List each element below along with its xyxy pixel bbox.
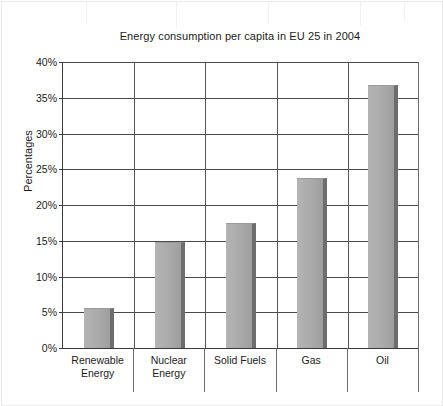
- scan-artifact: [176, 2, 177, 28]
- y-axis-tick: [59, 134, 63, 135]
- y-axis-tick-label: 5%: [42, 306, 57, 318]
- y-axis-tick: [59, 348, 63, 349]
- y-axis-title: Percentages: [22, 116, 34, 206]
- x-axis-category-label-line: Energy: [133, 367, 204, 380]
- x-axis-category-label-line: Solid Fuels: [204, 354, 275, 367]
- x-axis-category-label: Solid Fuels: [204, 354, 275, 367]
- scan-artifact: [404, 3, 405, 21]
- gridline: [63, 62, 419, 63]
- category-separator: [277, 62, 278, 348]
- bar: [155, 242, 185, 348]
- scan-artifact: [268, 3, 269, 23]
- scan-artifact: [86, 2, 87, 24]
- y-axis-tick-label: 35%: [36, 92, 57, 104]
- plot-right-border: [418, 62, 419, 392]
- x-axis-category-label: Oil: [347, 354, 418, 367]
- bar: [297, 178, 327, 348]
- y-axis-tick: [59, 169, 63, 170]
- y-axis-tick-label: 0%: [42, 342, 57, 354]
- bar: [226, 223, 256, 348]
- gridline: [63, 169, 419, 170]
- x-axis-category-label-line: Gas: [276, 354, 347, 367]
- scan-artifact: [360, 2, 361, 26]
- bar: [368, 85, 398, 348]
- y-axis-tick-label: 15%: [36, 235, 57, 247]
- y-axis-tick: [59, 312, 63, 313]
- x-axis-category-label: Gas: [276, 354, 347, 367]
- gridline: [63, 205, 419, 206]
- x-axis-category-label-line: Oil: [347, 354, 418, 367]
- x-axis-category-label-line: Energy: [62, 367, 133, 380]
- category-separator: [134, 62, 135, 348]
- y-axis-tick-label: 40%: [36, 56, 57, 68]
- chart-title: Energy consumption per capita in EU 25 i…: [62, 30, 418, 42]
- gridline: [63, 134, 419, 135]
- y-axis-tick: [59, 277, 63, 278]
- x-axis-category-label: NuclearEnergy: [133, 354, 204, 380]
- plot-area: 40%35%30%25%20%15%10%5%0%: [62, 62, 419, 349]
- x-axis-category-label: RenewableEnergy: [62, 354, 133, 380]
- y-axis-tick-label: 25%: [36, 163, 57, 175]
- y-axis-tick-label: 20%: [36, 199, 57, 211]
- x-axis-category-label-line: Renewable: [62, 354, 133, 367]
- y-axis-tick: [59, 98, 63, 99]
- y-axis-tick: [59, 205, 63, 206]
- gridline: [63, 98, 419, 99]
- category-separator: [205, 62, 206, 348]
- y-axis-tick-label: 30%: [36, 128, 57, 140]
- x-axis-category-label-line: Nuclear: [133, 354, 204, 367]
- gridline: [63, 348, 419, 349]
- y-axis-tick-label: 10%: [36, 271, 57, 283]
- category-separator: [348, 62, 349, 348]
- y-axis-tick: [59, 62, 63, 63]
- y-axis-tick: [59, 241, 63, 242]
- bar: [84, 308, 114, 348]
